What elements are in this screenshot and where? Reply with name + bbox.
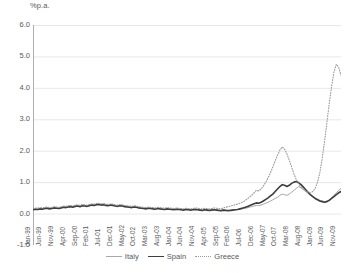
y-tick-label: 4.0 bbox=[2, 84, 30, 92]
legend-item-spain[interactable]: Spain bbox=[148, 252, 186, 261]
y-axis-unit-label: %p.a. bbox=[30, 1, 50, 10]
y-tick-label: 3.0 bbox=[2, 115, 30, 123]
legend-swatch-italy-icon bbox=[106, 256, 122, 257]
x-tick-label: Jan-99 bbox=[24, 227, 31, 246]
legend-swatch-greece-icon bbox=[195, 256, 211, 257]
x-tick-label: May-07 bbox=[259, 225, 266, 246]
legend-label-greece: Greece bbox=[214, 252, 239, 261]
x-tick-label: Mar-03 bbox=[141, 226, 148, 246]
legend-item-italy[interactable]: Italy bbox=[106, 252, 139, 261]
x-tick-label: Feb-01 bbox=[82, 226, 89, 246]
x-tick-label: Jun-04 bbox=[176, 227, 183, 246]
x-tick-label: Nov-04 bbox=[188, 226, 195, 246]
x-tick-label: Dec-06 bbox=[247, 226, 254, 246]
x-tick-label: Oct-02 bbox=[129, 227, 136, 246]
x-tick-label: Feb-06 bbox=[223, 226, 230, 246]
x-tick-label: Jul-06 bbox=[235, 229, 242, 246]
line-chart: %p.a. 6.05.04.03.02.01.00.0-1.0 Jan-99Ju… bbox=[0, 0, 345, 273]
series-line-greece bbox=[33, 64, 341, 209]
x-tick-label: Sep-00 bbox=[71, 226, 78, 246]
y-tick-label: 0.0 bbox=[2, 210, 30, 218]
x-axis-tick-labels: Jan-99Jun-99Nov-99Apr-00Sep-00Feb-01Jul-… bbox=[33, 200, 341, 246]
x-tick-label: Sep-05 bbox=[212, 226, 219, 246]
x-tick-label: Jan-04 bbox=[165, 227, 172, 246]
x-tick-label: Jun-09 bbox=[317, 227, 324, 246]
x-tick-label: Mar-08 bbox=[282, 226, 289, 246]
x-tick-label: Nov-09 bbox=[329, 226, 336, 246]
x-tick-label: Aug-03 bbox=[153, 226, 160, 246]
legend-swatch-spain-icon bbox=[148, 256, 164, 257]
legend-label-spain: Spain bbox=[167, 252, 186, 261]
x-tick-label: Nov-99 bbox=[47, 226, 54, 246]
y-tick-label: 5.0 bbox=[2, 52, 30, 60]
y-tick-label: 6.0 bbox=[2, 21, 30, 29]
x-tick-label: Apr-00 bbox=[59, 227, 66, 246]
x-tick-label: May-02 bbox=[118, 225, 125, 246]
y-tick-label: 1.0 bbox=[2, 178, 30, 186]
x-tick-label: Oct-07 bbox=[270, 227, 277, 246]
legend-item-greece[interactable]: Greece bbox=[195, 252, 239, 261]
x-tick-label: Aug-08 bbox=[294, 226, 301, 246]
x-tick-label: Dec-01 bbox=[106, 226, 113, 246]
y-tick-label: 2.0 bbox=[2, 147, 30, 155]
x-tick-label: Jan-09 bbox=[306, 227, 313, 246]
x-tick-label: Apr-05 bbox=[200, 227, 207, 246]
x-tick-label: Jul-01 bbox=[94, 229, 101, 246]
x-tick-label: Jun-99 bbox=[35, 227, 42, 246]
chart-legend: Italy Spain Greece bbox=[0, 252, 345, 261]
legend-label-italy: Italy bbox=[125, 252, 139, 261]
